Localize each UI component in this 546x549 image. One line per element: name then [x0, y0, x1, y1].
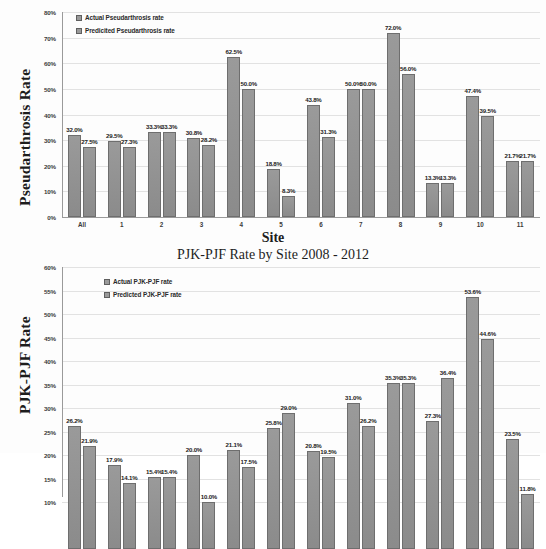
y-axis-line: [62, 267, 63, 497]
bar-value-label: 25.8%: [265, 419, 281, 426]
y-axis-tick-label: 30%: [26, 405, 56, 412]
bar-value-label: 15.4%: [161, 468, 177, 475]
legend-swatch-icon: [76, 28, 82, 34]
x-axis-tick-label: 8: [399, 221, 403, 228]
bar: [481, 339, 494, 549]
gridline: [62, 63, 540, 64]
bar: [506, 439, 519, 549]
bar: [466, 96, 479, 217]
bar: [148, 132, 161, 217]
bar: [282, 413, 295, 549]
bar: [362, 426, 375, 549]
bar: [521, 161, 534, 217]
bar-value-label: 35.3%: [400, 374, 416, 381]
legend-item: Predicited Pseudarthrosis rate: [76, 27, 175, 34]
bar: [242, 89, 255, 217]
y-axis-tick-label: 10%: [26, 499, 56, 506]
bar: [362, 89, 375, 217]
y-axis-tick-label: 70%: [26, 34, 56, 41]
x-axis-tick-label: 9: [439, 221, 443, 228]
x-axis-tick-label: 5: [279, 221, 283, 228]
bar-value-label: 29.0%: [280, 404, 296, 411]
x-axis-tick-label: 3: [200, 221, 204, 228]
legend-label: Predicited Pseudarthrosis rate: [85, 27, 175, 34]
legend-label: Actual PJK-PJF rate: [113, 278, 172, 285]
bar-value-label: 31.0%: [345, 394, 361, 401]
bar-value-label: 35.3%: [385, 374, 401, 381]
bar: [481, 116, 494, 217]
x-axis-tick-label: 11: [517, 221, 524, 228]
legend-swatch-icon: [76, 15, 82, 21]
bar-value-label: 62.5%: [226, 48, 242, 55]
bar-value-label: 32.0%: [66, 126, 82, 133]
bar-value-label: 30.8%: [186, 129, 202, 136]
bar-value-label: 33.3%: [146, 123, 162, 130]
bar: [68, 135, 81, 217]
bar-value-label: 29.5%: [106, 132, 122, 139]
bar: [402, 383, 415, 549]
bar: [322, 137, 335, 217]
bar: [163, 477, 176, 549]
x-axis-tick-label: 7: [359, 221, 363, 228]
bar-value-label: 39.5%: [480, 107, 496, 114]
y-axis-tick-label: 80%: [26, 9, 56, 16]
x-axis-tick-label: All: [78, 221, 86, 228]
y-axis-line: [62, 12, 63, 217]
y-axis-tick-label: 50%: [26, 85, 56, 92]
gridline: [62, 267, 540, 268]
bar: [426, 183, 439, 217]
bar: [441, 183, 454, 217]
legend-item: Actual PJK-PJF rate: [104, 278, 181, 285]
bar-value-label: 33.3%: [161, 123, 177, 130]
y-axis-title-pjk-pjf: PJK-PJF Rate: [16, 316, 34, 414]
bar-value-label: 53.6%: [465, 288, 481, 295]
bar-value-label: 13.3%: [425, 174, 441, 181]
bar: [148, 477, 161, 549]
bar: [387, 383, 400, 549]
x-axis-tick-label: 6: [319, 221, 323, 228]
y-axis-tick-label: 20%: [26, 162, 56, 169]
x-axis-tick-label: 1: [120, 221, 124, 228]
bar: [466, 297, 479, 549]
y-axis-tick-label: 60%: [26, 264, 56, 271]
bar: [521, 494, 534, 549]
chart-pjk-pjf-rate: PJK-PJF Rate by Site 2008 - 2012 PJK-PJF…: [0, 250, 546, 453]
bar: [108, 141, 121, 217]
bar: [68, 426, 81, 549]
bar-value-label: 15.4%: [146, 468, 162, 475]
bar: [202, 502, 215, 549]
bar-value-label: 44.6%: [480, 330, 496, 337]
bar-value-label: 27.5%: [81, 138, 97, 145]
bar-value-label: 20.0%: [186, 446, 202, 453]
bar-value-label: 56.0%: [400, 65, 416, 72]
y-axis-tick-label: 40%: [26, 358, 56, 365]
legend-item: Predicted PJK-PJF rate: [104, 291, 181, 298]
bar-value-label: 14.1%: [121, 474, 137, 481]
bar-value-label: 31.3%: [320, 128, 336, 135]
bar: [267, 169, 280, 217]
legend-pseudarthrosis: Actual Pseudarthrosis ratePredicited Pse…: [76, 14, 175, 40]
y-axis-tick-label: 50%: [26, 311, 56, 318]
bar-value-label: 8.3%: [282, 187, 295, 194]
bar-value-label: 21.9%: [81, 437, 97, 444]
x-axis-tick-label: 2: [160, 221, 164, 228]
bar: [227, 57, 240, 217]
bar-value-label: 27.3%: [425, 412, 441, 419]
bar-value-label: 50.0%: [345, 80, 361, 87]
bar: [83, 147, 96, 217]
x-axis-line: [62, 217, 540, 218]
bar: [347, 89, 360, 217]
bar-value-label: 21.1%: [226, 441, 242, 448]
y-axis-tick-label: 10%: [26, 188, 56, 195]
bar: [83, 446, 96, 549]
y-axis-tick-label: 25%: [26, 428, 56, 435]
bar-value-label: 26.2%: [360, 417, 376, 424]
bar-value-label: 26.2%: [66, 417, 82, 424]
chart-title-pjk-pjf: PJK-PJF Rate by Site 2008 - 2012: [0, 247, 546, 263]
y-axis-tick-label: 55%: [26, 287, 56, 294]
bar: [307, 451, 320, 549]
bar-value-label: 47.4%: [465, 87, 481, 94]
y-axis-tick-label: 45%: [26, 334, 56, 341]
x-axis-title-site: Site: [0, 230, 546, 246]
bar: [282, 196, 295, 217]
